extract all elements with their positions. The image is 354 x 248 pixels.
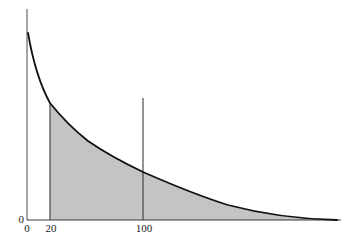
y-axis-tick-label-0: 0 xyxy=(19,214,25,225)
chart-plot-area xyxy=(0,0,354,248)
x-axis-tick-label-20: 20 xyxy=(46,223,57,234)
x-axis-tick-label-0: 0 xyxy=(24,223,30,234)
chart-figure: 0 0 20 100 xyxy=(0,0,354,248)
x-axis-tick-label-100: 100 xyxy=(136,223,153,234)
shaded-area-under-curve xyxy=(50,103,337,220)
